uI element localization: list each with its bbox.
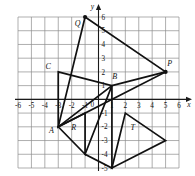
point-label-B: B <box>112 72 117 81</box>
svg-text:-3: -3 <box>102 137 108 145</box>
point-label-P: P <box>166 59 172 68</box>
svg-text:x: x <box>186 100 191 109</box>
point-label-T: T <box>130 123 135 132</box>
svg-text:-6: -6 <box>15 102 21 110</box>
svg-text:3: 3 <box>137 102 141 110</box>
point-label-A: A <box>48 126 54 135</box>
svg-text:6: 6 <box>177 102 181 110</box>
svg-text:-4: -4 <box>42 102 48 110</box>
svg-text:2: 2 <box>124 102 128 110</box>
svg-text:-5: -5 <box>28 102 34 110</box>
svg-text:4: 4 <box>102 41 106 49</box>
svg-text:2: 2 <box>102 69 106 77</box>
svg-text:-2: -2 <box>69 102 75 110</box>
svg-text:6: 6 <box>102 14 106 22</box>
svg-text:3: 3 <box>102 55 106 63</box>
point-label-R: R <box>70 123 76 132</box>
svg-text:-2: -2 <box>102 123 108 131</box>
tick-labels: -6-5-4-3-2-10123456654321-1-2-3-4-5xy <box>15 2 191 173</box>
coordinate-plane-svg: -6-5-4-3-2-10123456654321-1-2-3-4-5xy QC… <box>0 0 195 176</box>
point-labels: QCPBART <box>46 19 173 135</box>
graph-figure: -6-5-4-3-2-10123456654321-1-2-3-4-5xy QC… <box>0 0 195 176</box>
svg-text:4: 4 <box>150 102 154 110</box>
point-label-C: C <box>46 62 52 71</box>
point-label-Q: Q <box>75 19 81 28</box>
svg-text:y: y <box>90 2 95 11</box>
svg-text:-4: -4 <box>102 151 108 159</box>
svg-text:5: 5 <box>164 102 168 110</box>
